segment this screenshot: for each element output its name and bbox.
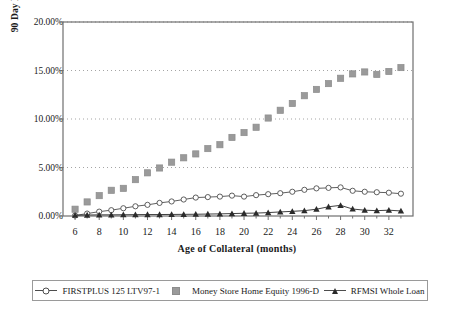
data-point: [253, 124, 259, 130]
data-point: [374, 190, 379, 195]
data-point: [241, 194, 246, 199]
x-tick-label: 20: [239, 226, 249, 237]
data-point: [278, 191, 283, 196]
data-point: [205, 145, 211, 151]
x-tick-label: 10: [118, 226, 128, 237]
data-point: [193, 151, 199, 157]
data-point: [157, 200, 162, 205]
data-point: [205, 194, 210, 199]
data-point: [169, 159, 175, 165]
data-point: [337, 75, 343, 81]
x-tick-label: 12: [142, 226, 152, 237]
x-tick-label: 26: [311, 226, 321, 237]
data-point: [181, 155, 187, 161]
data-point: [277, 107, 283, 113]
data-point: [398, 191, 403, 196]
data-point: [132, 177, 138, 183]
data-point: [217, 194, 222, 199]
data-point: [362, 69, 368, 75]
data-point: [145, 202, 150, 207]
plot-area: [0, 0, 460, 314]
legend-item-label: RFMSI Whole Loan: [351, 286, 425, 296]
data-point: [386, 190, 391, 195]
data-point: [289, 100, 295, 106]
chart-legend: FIRSTPLUS 125 LTV97-1Money Store Home Eq…: [32, 280, 428, 301]
x-axis-label: Age of Collateral (months): [60, 243, 414, 254]
data-point: [133, 204, 138, 209]
x-tick-label: 6: [73, 226, 78, 237]
x-tick-label: 28: [336, 226, 346, 237]
legend-item[interactable]: Money Store Home Equity 1996-D: [165, 286, 319, 296]
data-point: [241, 129, 247, 135]
data-point: [121, 206, 126, 211]
data-point: [301, 93, 307, 99]
legend-marker-icon: [324, 286, 346, 296]
legend-item[interactable]: RFMSI Whole Loan: [324, 286, 425, 296]
x-tick-label: 16: [191, 226, 201, 237]
x-tick-label: 14: [167, 226, 177, 237]
data-point: [181, 197, 186, 202]
data-point: [84, 199, 90, 205]
x-tick-label: 30: [360, 226, 370, 237]
data-point: [374, 71, 380, 77]
x-tick-label: 24: [287, 226, 297, 237]
data-point: [386, 68, 392, 74]
data-point: [169, 199, 174, 204]
data-point: [217, 142, 223, 148]
data-point: [350, 188, 355, 193]
data-point: [229, 134, 235, 140]
x-tick-label: 22: [263, 226, 273, 237]
data-point: [302, 187, 307, 192]
data-point: [229, 193, 234, 198]
data-point: [144, 170, 150, 176]
data-point: [326, 185, 331, 190]
legend-marker-icon: [165, 286, 187, 296]
x-tick-label: 32: [384, 226, 394, 237]
legend-item[interactable]: FIRSTPLUS 125 LTV97-1: [35, 286, 160, 296]
data-point: [96, 193, 102, 199]
data-point: [325, 80, 331, 86]
data-point: [156, 165, 162, 171]
data-point: [313, 86, 319, 92]
data-point: [337, 202, 343, 208]
data-point: [120, 185, 126, 191]
data-point: [254, 193, 259, 198]
data-point: [108, 187, 114, 193]
x-tick-label: 18: [215, 226, 225, 237]
data-point: [266, 192, 271, 197]
data-point: [72, 206, 78, 212]
data-point: [398, 64, 404, 70]
data-point: [314, 186, 319, 191]
legend-item-label: Money Store Home Equity 1996-D: [192, 286, 319, 296]
x-tick-label: 8: [97, 226, 102, 237]
data-point: [290, 189, 295, 194]
data-point: [265, 115, 271, 121]
data-point: [350, 71, 356, 77]
chart-figure: 90 Day Delinquency1 0.00%5.00%10.00%15.0…: [0, 0, 460, 314]
legend-item-label: FIRSTPLUS 125 LTV97-1: [62, 286, 160, 296]
data-point: [362, 189, 367, 194]
data-point: [193, 195, 198, 200]
legend-marker-icon: [35, 286, 57, 296]
data-point: [338, 185, 343, 190]
